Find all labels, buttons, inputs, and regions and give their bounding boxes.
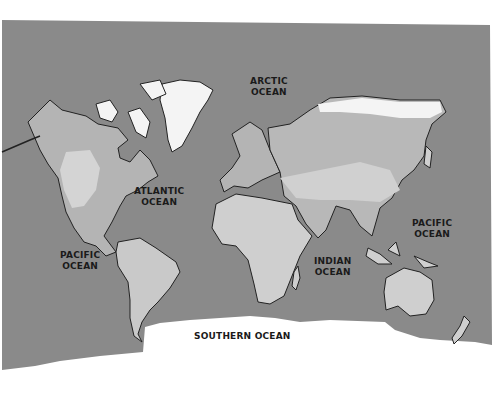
pacific-ocean-west-label: PACIFIC OCEAN: [60, 250, 100, 272]
southern-ocean-label: SOUTHERN OCEAN: [194, 331, 291, 342]
pacific-ocean-east-label: PACIFIC OCEAN: [412, 218, 452, 240]
indian-ocean-label: INDIAN OCEAN: [314, 256, 351, 278]
arctic-ocean-label: ARCTIC OCEAN: [250, 76, 288, 98]
atlantic-ocean-label: ATLANTIC OCEAN: [134, 186, 184, 208]
